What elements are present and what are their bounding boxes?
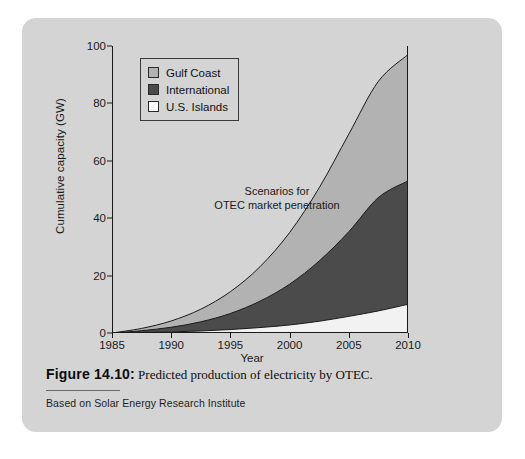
x-tick-label: 2010	[395, 339, 421, 351]
legend-label-gulf-coast: Gulf Coast	[166, 67, 220, 79]
x-tick-mark	[230, 333, 231, 338]
y-tick-label: 60	[93, 155, 106, 167]
figure-panel: Cumulative capacity (GW) 0204060801	[22, 18, 502, 432]
x-axis-title: Year	[192, 352, 312, 364]
y-tick-mark	[107, 46, 112, 47]
legend-swatch-gulf-coast	[148, 67, 159, 78]
y-tick-label: 100	[87, 40, 106, 52]
x-tick-mark	[408, 333, 409, 338]
y-tick-mark	[107, 218, 112, 219]
legend-swatch-us-islands	[148, 101, 159, 112]
y-tick-mark	[107, 275, 112, 276]
chart-legend: Gulf Coast International U.S. Islands	[140, 58, 239, 121]
y-tick-mark	[107, 103, 112, 104]
x-tick-label: 1990	[158, 339, 184, 351]
caption-divider	[46, 390, 120, 391]
figure-number: Figure 14.10:	[46, 366, 135, 382]
legend-item-international: International	[148, 81, 229, 98]
x-tick-mark	[290, 333, 291, 338]
x-tick-label: 2000	[277, 339, 303, 351]
figure-caption: Figure 14.10: Predicted production of el…	[46, 366, 482, 383]
x-tick-label: 1985	[99, 339, 125, 351]
y-tick-mark	[107, 160, 112, 161]
figure-source: Based on Solar Energy Research Institute	[46, 397, 482, 409]
x-tick-mark	[171, 333, 172, 338]
annotation-line-2: OTEC market penetration	[192, 198, 362, 212]
x-tick-mark	[112, 333, 113, 338]
y-tick-label: 40	[93, 212, 106, 224]
annotation-line-1: Scenarios for	[192, 184, 362, 198]
y-axis-title: Cumulative capacity (GW)	[54, 66, 66, 266]
figure-caption-text: Predicted production of electricity by O…	[138, 367, 373, 382]
chart-annotation: Scenarios for OTEC market penetration	[192, 184, 362, 212]
legend-item-gulf-coast: Gulf Coast	[148, 64, 229, 81]
legend-swatch-international	[148, 84, 159, 95]
legend-item-us-islands: U.S. Islands	[148, 98, 229, 115]
x-tick-label: 1995	[218, 339, 244, 351]
y-tick-label: 0	[100, 327, 106, 339]
y-tick-label: 80	[93, 97, 106, 109]
x-tick-label: 2005	[336, 339, 362, 351]
chart-area: Cumulative capacity (GW) 0204060801	[22, 18, 502, 358]
y-tick-label: 20	[93, 270, 106, 282]
legend-label-international: International	[166, 84, 229, 96]
x-tick-mark	[349, 333, 350, 338]
legend-label-us-islands: U.S. Islands	[166, 101, 228, 113]
plot-region: 020406080100 198519901995200020052010 Gu…	[112, 46, 408, 333]
figure-caption-block: Figure 14.10: Predicted production of el…	[46, 366, 482, 409]
